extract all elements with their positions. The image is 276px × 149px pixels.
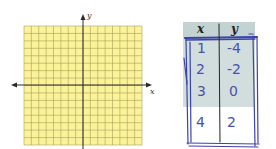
bottom-border-line bbox=[187, 143, 259, 144]
x-axis-label: x bbox=[150, 87, 155, 96]
y-axis-up-arrow-icon bbox=[81, 14, 86, 20]
xy-table: x y 1 -4 2 -2 3 0 4 2 bbox=[183, 22, 263, 149]
coordinate-grid: x y bbox=[0, 0, 160, 149]
x-axis-left-arrow-icon bbox=[11, 83, 17, 88]
header-divider-line bbox=[185, 37, 257, 38]
column-divider-line bbox=[219, 24, 220, 142]
left-border-line bbox=[186, 39, 188, 144]
y-axis-label: y bbox=[86, 11, 92, 20]
handwritten-table-lines bbox=[183, 22, 263, 149]
right-border-line bbox=[253, 36, 255, 146]
